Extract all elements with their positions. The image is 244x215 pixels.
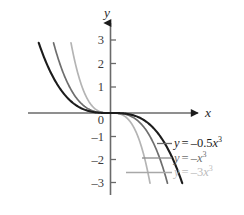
y-axis-label: y [104, 6, 110, 20]
curve-1-exponent: 3 [218, 135, 222, 144]
curve-1-eq: = [182, 136, 189, 150]
curve-label-minus-x-cubed: y=–x3 [174, 152, 206, 165]
y-tick-label-1: 1 [88, 81, 104, 94]
curve-3-coefficient: –3 [191, 165, 204, 179]
curve-1-lhs: y [174, 136, 180, 150]
y-tick-label-3: 3 [88, 34, 104, 47]
curve-label-minus-3x-cubed: y=–3x3 [174, 166, 213, 179]
curve-3-exponent: 3 [209, 164, 213, 173]
curve-2-lhs: y [174, 151, 180, 165]
y-tick-label-minus-2: –2 [82, 154, 104, 167]
y-tick-label-0: 0 [88, 114, 104, 127]
curve-2-exponent: 3 [202, 149, 206, 158]
y-tick-label-minus-1: –1 [82, 131, 104, 144]
y-tick-label-minus-3: –3 [82, 177, 104, 190]
x-axis-label: x [205, 106, 211, 120]
curve-3-eq: = [182, 165, 189, 179]
y-axis-ticks [111, 40, 117, 183]
curve-3-lhs: y [174, 165, 180, 179]
curve-1-coefficient: –0.5 [191, 136, 213, 150]
cubic-functions-figure: 3 2 1 0 –1 –2 –3 y x y=–0.5x3 y=–x3 y=–3… [0, 0, 244, 215]
y-tick-label-2: 2 [88, 58, 104, 71]
curve-2-eq: = [182, 151, 189, 165]
curve-label-minus-half-x-cubed: y=–0.5x3 [174, 137, 222, 150]
